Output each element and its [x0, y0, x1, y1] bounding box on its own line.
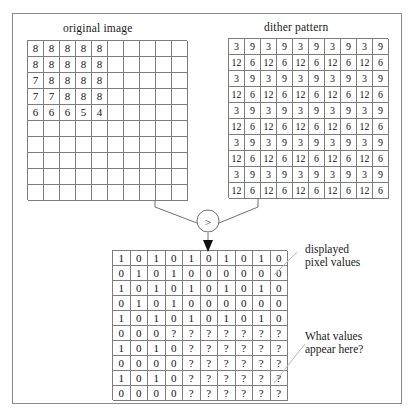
grid-cell: [44, 137, 60, 153]
grid-cell: 8: [60, 57, 76, 73]
grid-cell: [108, 121, 124, 137]
grid-cell: 8: [92, 89, 108, 105]
grid-cell: 0: [271, 251, 289, 266]
grid-cell: 0: [201, 251, 219, 266]
grid-cell: 9: [341, 103, 357, 119]
grid-cell: 9: [277, 71, 293, 87]
grid-cell: 8: [60, 89, 76, 105]
grid-cell: 3: [229, 71, 245, 87]
displayed-label-line-2: pixel values: [305, 256, 360, 269]
displayed-pixel-values-label: displayed pixel values: [305, 243, 360, 269]
grid-cell: [60, 169, 76, 185]
grid-cell: 12: [325, 55, 341, 71]
grid-cell: 9: [373, 71, 389, 87]
grid-cell: 0: [253, 296, 271, 311]
grid-cell: [76, 121, 92, 137]
grid-cell: ?: [201, 326, 219, 341]
grid-cell: [124, 169, 140, 185]
grid-cell: 3: [261, 103, 277, 119]
grid-cell: 6: [373, 87, 389, 103]
grid-cell: [140, 121, 156, 137]
grid-cell: [156, 105, 172, 121]
grid-cell: 3: [325, 135, 341, 151]
grid-cell: [60, 153, 76, 169]
grid-cell: 12: [325, 183, 341, 199]
grid-cell: [140, 105, 156, 121]
grid-cell: [92, 121, 108, 137]
grid-cell: 9: [309, 103, 325, 119]
grid-cell: 0: [218, 296, 236, 311]
grid-cell: [140, 169, 156, 185]
grid-cell: 3: [229, 39, 245, 55]
grid-cell: 6: [277, 87, 293, 103]
grid-cell: [28, 153, 44, 169]
grid-cell: [156, 153, 172, 169]
grid-cell: 1: [253, 251, 271, 266]
grid-cell: ?: [201, 371, 219, 386]
grid-cell: [124, 153, 140, 169]
grid-cell: [108, 137, 124, 153]
grid-cell: ?: [218, 386, 236, 401]
grid-cell: 12: [357, 119, 373, 135]
grid-cell: [124, 57, 140, 73]
grid-cell: ?: [166, 326, 184, 341]
grid-cell: ?: [253, 356, 271, 371]
grid-cell: [124, 185, 140, 201]
grid-cell: [28, 137, 44, 153]
grid-cell: [60, 185, 76, 201]
grid-cell: 0: [166, 386, 184, 401]
grid-cell: 1: [148, 311, 166, 326]
grid-cell: 3: [261, 135, 277, 151]
grid-cell: 9: [373, 135, 389, 151]
grid-cell: 0: [166, 356, 184, 371]
grid-cell: [60, 137, 76, 153]
grid-cell: [44, 153, 60, 169]
grid-cell: 0: [148, 386, 166, 401]
grid-cell: 6: [373, 151, 389, 167]
grid-cell: ?: [236, 386, 254, 401]
grid-cell: ?: [271, 326, 289, 341]
grid-cell: 6: [245, 55, 261, 71]
question-label-line-1: What values: [305, 330, 363, 343]
grid-cell: 6: [341, 87, 357, 103]
grid-cell: 0: [183, 266, 201, 281]
grid-cell: [44, 121, 60, 137]
grid-cell: 0: [148, 326, 166, 341]
grid-cell: 0: [113, 296, 131, 311]
grid-cell: 0: [201, 296, 219, 311]
grid-cell: 1: [253, 311, 271, 326]
grid-cell: [172, 41, 188, 57]
grid-cell: [108, 57, 124, 73]
grid-cell: [140, 137, 156, 153]
grid-cell: [156, 57, 172, 73]
grid-cell: 0: [201, 281, 219, 296]
grid-cell: 8: [76, 41, 92, 57]
original-image-grid: 8888888888788887788866654: [27, 40, 187, 200]
grid-cell: ?: [271, 341, 289, 356]
grid-cell: 7: [44, 89, 60, 105]
grid-cell: 6: [309, 119, 325, 135]
grid-cell: 3: [293, 39, 309, 55]
grid-cell: 0: [236, 251, 254, 266]
grid-cell: 6: [309, 55, 325, 71]
grid-cell: ?: [218, 341, 236, 356]
grid-cell: ?: [253, 326, 271, 341]
grid-cell: [28, 121, 44, 137]
grid-cell: ?: [201, 356, 219, 371]
grid-cell: 12: [293, 119, 309, 135]
grid-cell: 8: [60, 41, 76, 57]
grid-cell: 7: [28, 89, 44, 105]
grid-cell: [140, 41, 156, 57]
grid-cell: 1: [113, 371, 131, 386]
grid-cell: 9: [277, 135, 293, 151]
grid-cell: [124, 105, 140, 121]
grid-cell: ?: [183, 341, 201, 356]
grid-cell: 12: [293, 183, 309, 199]
grid-cell: 3: [357, 135, 373, 151]
grid-cell: 1: [113, 251, 131, 266]
grid-cell: [172, 89, 188, 105]
grid-cell: 0: [236, 281, 254, 296]
grid-cell: 1: [148, 341, 166, 356]
grid-cell: [156, 73, 172, 89]
grid-cell: 0: [166, 281, 184, 296]
